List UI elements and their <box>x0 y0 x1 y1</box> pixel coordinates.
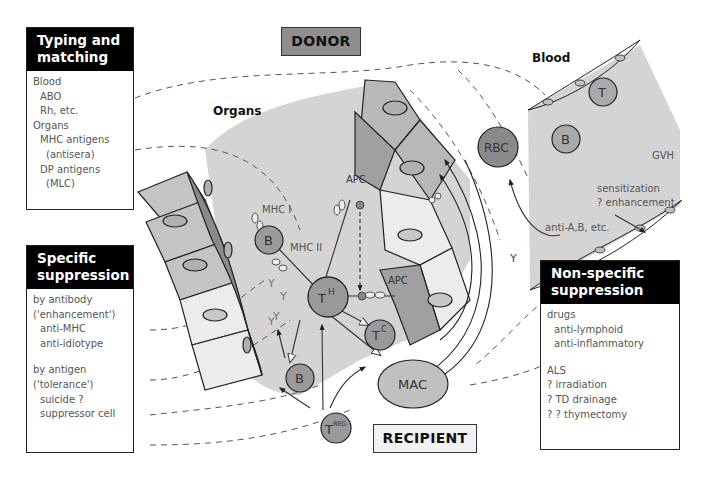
cell-apc-bottom: APC <box>388 275 408 286</box>
nonspecific-suppression-panel: Non-specific suppression drugs anti-lymp… <box>540 260 680 450</box>
mhc1-label: MHC I <box>262 204 291 215</box>
svg-text:Y: Y <box>272 310 280 323</box>
panel-body: drugs anti-lymphoid anti-inflammatory AL… <box>541 304 679 426</box>
cell-mac: MAC <box>378 360 448 408</box>
panel-title: Non-specific suppression <box>541 261 679 304</box>
panel-body: Blood ABO Rh, etc. Organs MHC antigens (… <box>27 71 133 196</box>
cell-th: T H <box>308 277 348 317</box>
svg-text:H: H <box>328 287 335 297</box>
svg-text:MAC: MAC <box>398 377 427 392</box>
cell-b-blood: B <box>552 125 580 153</box>
anti-ab-label: anti-A,B, etc. <box>545 222 610 233</box>
svg-text:APC: APC <box>388 275 408 286</box>
panel-title: Specific suppression <box>27 246 133 289</box>
svg-text:APC: APC <box>346 174 366 185</box>
panel-body: by antibody ('enhancement') anti-MHC ant… <box>27 289 133 426</box>
svg-text:B: B <box>561 132 570 147</box>
cell-apc-top: APC <box>346 174 366 185</box>
svg-text:B: B <box>295 371 304 386</box>
donor-label: DONOR <box>281 27 361 56</box>
svg-text:REG: REG <box>333 420 347 428</box>
svg-text:T: T <box>597 85 606 100</box>
enhancement-label: ? enhancement <box>597 197 675 208</box>
svg-text:RBC: RBC <box>484 141 509 155</box>
blood-heading: Blood <box>532 51 570 65</box>
cell-treg: T REG <box>321 413 351 443</box>
blood-vessel <box>528 40 682 290</box>
gvh-label: GVH <box>652 150 674 161</box>
svg-text:B: B <box>264 233 273 248</box>
svg-text:Y: Y <box>267 277 275 290</box>
svg-text:T: T <box>324 422 333 437</box>
cell-tc: T C <box>365 320 395 350</box>
organs-heading: Organs <box>213 104 262 118</box>
svg-text:C: C <box>381 325 387 334</box>
sensitization-label: sensitization <box>597 183 660 194</box>
svg-text:Y: Y <box>279 290 287 303</box>
mhc2-label: MHC II <box>290 242 322 253</box>
recipient-label: RECIPIENT <box>373 424 477 453</box>
cell-t-blood: T <box>589 78 617 106</box>
specific-suppression-panel: Specific suppression by antibody ('enhan… <box>26 245 134 453</box>
cell-b-organ-top: B <box>255 226 283 254</box>
typing-matching-panel: Typing and matching Blood ABO Rh, etc. O… <box>26 27 134 210</box>
svg-text:T: T <box>317 291 326 306</box>
svg-text:T: T <box>371 328 380 343</box>
cell-b-organ-bottom: B <box>286 364 314 392</box>
cell-rbc: RBC <box>478 127 518 167</box>
svg-text:Y: Y <box>509 252 517 265</box>
panel-title: Typing and matching <box>27 28 133 71</box>
